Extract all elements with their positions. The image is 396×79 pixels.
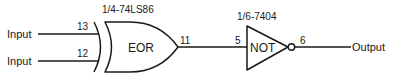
xor-gate-back-curve [94, 22, 101, 72]
pin-11-label: 11 [180, 36, 190, 46]
circuit-wiring [0, 0, 396, 79]
input-label-bottom: Input [7, 56, 31, 67]
xor-chip-label: 1/4-74LS86 [102, 5, 154, 15]
output-label: Output [352, 42, 385, 53]
input-label-top: Input [7, 29, 31, 40]
xor-symbol-label: EOR [128, 42, 154, 54]
pin-5-label: 5 [235, 36, 241, 46]
pin-12-label: 12 [77, 49, 88, 59]
not-chip-label: 1/6-7404 [237, 12, 276, 22]
not-symbol-label: NOT [250, 42, 275, 54]
pin-13-label: 13 [77, 22, 88, 32]
circuit-diagram: Input Input 13 12 1/4-74LS86 EOR 11 1/6-… [0, 0, 396, 79]
inversion-bubble [288, 44, 294, 50]
pin-6-label: 6 [300, 36, 306, 46]
